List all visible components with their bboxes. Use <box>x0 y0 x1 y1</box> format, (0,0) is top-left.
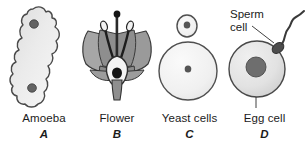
yeast-parent-nucleus <box>185 65 192 72</box>
panel-amoeba: Amoeba A <box>0 0 88 151</box>
panel-flower: Flower B <box>76 0 158 151</box>
flower-stigma <box>114 10 121 17</box>
panel-label-flower: Flower <box>76 112 158 125</box>
amoeba-cell-icon <box>0 0 88 112</box>
flower-cross-section-icon <box>76 0 158 112</box>
sperm-cell-annotation: Sperm cell <box>230 8 278 34</box>
panel-label-yeast: Yeast cells <box>152 112 227 125</box>
amoeba-nucleus-bottom <box>28 84 37 92</box>
yeast-budding-cells-icon <box>152 0 227 112</box>
sperm-cell-label-line1: Sperm <box>230 8 278 21</box>
panel-label-egg: Egg cell <box>222 112 307 125</box>
yeast-bud-nucleus <box>184 21 191 28</box>
flower-stalk <box>112 80 122 100</box>
sperm-flagellum <box>282 11 304 44</box>
panel-label-amoeba: Amoeba <box>0 112 88 125</box>
panel-yeast: Yeast cells C <box>152 0 227 151</box>
amoeba-nucleus-top <box>30 20 39 28</box>
panel-egg: Sperm cell Egg cell D <box>222 0 307 151</box>
panel-letter-amoeba: A <box>0 128 88 141</box>
sperm-cell-label-line2: cell <box>230 21 278 34</box>
egg-cell-nucleus <box>246 57 266 77</box>
flower-ovule <box>112 67 122 78</box>
biology-figure: Amoeba A Fl <box>0 0 307 151</box>
panel-letter-yeast: C <box>152 128 227 141</box>
panel-letter-egg: D <box>222 128 307 141</box>
panel-letter-flower: B <box>76 128 158 141</box>
